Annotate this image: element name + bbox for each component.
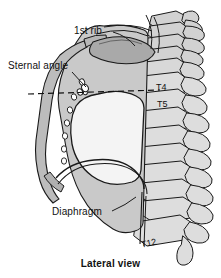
thorax-illustration [0, 0, 221, 278]
vertebra-upper-cluster [144, 11, 204, 66]
label-sternal-angle: Sternal angle [8, 60, 68, 71]
label-vertebra-t5: T5 [157, 99, 168, 109]
label-first-rib: 1st rib [74, 25, 102, 36]
label-diaphragm: Diaphragm [52, 206, 102, 217]
figure-caption: Lateral view [0, 258, 221, 269]
lateral-thorax-figure: 1st rib Sternal angle Diaphragm T4 T5 T1… [0, 0, 221, 278]
label-vertebra-t4: T4 [156, 82, 167, 92]
